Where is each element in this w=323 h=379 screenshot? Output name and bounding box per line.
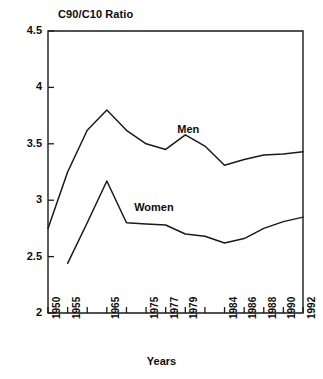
y-tick-label: 2 [16, 307, 42, 318]
series-line-men [48, 110, 303, 228]
y-tick-label: 4.5 [16, 25, 42, 36]
chart-figure: C90/C10 Ratio 22.533.544.5 1950195519651… [0, 0, 323, 379]
x-tick-label: 1950 [52, 297, 62, 319]
y-tick-marks [48, 31, 54, 313]
y-tick-label: 3 [16, 194, 42, 205]
x-tick-label: 1965 [111, 297, 121, 319]
chart-plot-area [0, 0, 323, 379]
x-tick-label: 1992 [307, 297, 317, 319]
x-tick-label: 1984 [229, 297, 239, 319]
series-label-men: Men [177, 123, 199, 135]
series-lines [48, 110, 303, 263]
series-line-women [68, 181, 303, 263]
y-tick-label: 3.5 [16, 138, 42, 149]
x-tick-label: 1979 [189, 297, 199, 319]
axis-frame [48, 31, 303, 313]
x-tick-label: 1988 [268, 297, 278, 319]
x-axis-title: Years [0, 355, 323, 367]
x-tick-label: 1955 [72, 297, 82, 319]
x-tick-label: 1986 [248, 297, 258, 319]
y-tick-label: 2.5 [16, 251, 42, 262]
x-tick-label: 1977 [170, 297, 180, 319]
series-label-women: Women [134, 201, 174, 213]
axis-frame-path [48, 31, 303, 313]
x-tick-label: 1990 [287, 297, 297, 319]
x-tick-label: 1975 [150, 297, 160, 319]
y-tick-label: 4 [16, 81, 42, 92]
